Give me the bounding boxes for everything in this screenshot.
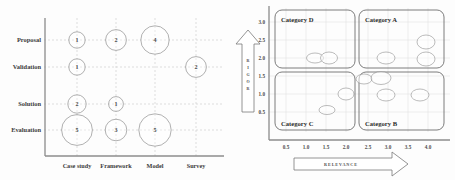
x-label-model: Model bbox=[147, 162, 164, 169]
y-tick: 2.0 bbox=[259, 55, 266, 61]
relevance-axis-arrow: RELEVANCE bbox=[294, 152, 408, 176]
figure-pair-canvas: Proposal Validation Solution Evaluation … bbox=[0, 0, 455, 180]
y-label-evaluation: Evaluation bbox=[11, 126, 41, 133]
right-quadrant-figure: 3.0 2.5 2.0 1.5 1.0 0.5 0.5 1.0 1.5 2.0 … bbox=[228, 0, 455, 180]
bubble-value: 1 bbox=[76, 37, 79, 43]
y-label-proposal: Proposal bbox=[17, 36, 41, 43]
x-tick: 0.5 bbox=[283, 144, 290, 150]
quadrant-label-category-b: Category B bbox=[365, 120, 398, 127]
left-chart-x-axis-labels: Case study Framework Model Survey bbox=[63, 162, 207, 169]
bubble-proposal-case-study: 1 bbox=[69, 32, 85, 48]
x-tick: 2.0 bbox=[343, 144, 350, 150]
x-tick: 2.5 bbox=[365, 144, 372, 150]
bubble-value: 2 bbox=[76, 101, 79, 107]
left-chart-y-axis-labels: Proposal Validation Solution Evaluation bbox=[11, 36, 41, 133]
x-tick: 1.0 bbox=[303, 144, 310, 150]
right-chart-x-tick-labels: 0.5 1.0 1.5 2.0 2.5 3.0 3.5 4.0 bbox=[283, 144, 432, 150]
relevance-axis-label: RELEVANCE bbox=[324, 162, 358, 167]
bubble-value: 5 bbox=[76, 127, 79, 133]
rigor-letter: G bbox=[246, 72, 249, 77]
bubble-solution-case-study: 2 bbox=[68, 95, 86, 113]
bubble-value: 5 bbox=[154, 127, 157, 133]
x-label-survey: Survey bbox=[187, 162, 206, 169]
bubble-value: 1 bbox=[76, 64, 79, 70]
bubble-proposal-model: 4 bbox=[141, 26, 169, 54]
bubble-evaluation-model: 5 bbox=[139, 114, 171, 146]
data-point-ellipse bbox=[356, 74, 372, 84]
quadrant-label-category-d: Category D bbox=[281, 16, 314, 23]
bubble-evaluation-framework: 3 bbox=[105, 119, 127, 141]
bubble-evaluation-case-study: 5 bbox=[62, 115, 93, 146]
x-tick: 1.5 bbox=[323, 144, 330, 150]
data-point-ellipse bbox=[377, 89, 395, 101]
y-tick: 2.5 bbox=[259, 37, 266, 43]
data-point-ellipse bbox=[338, 88, 354, 100]
data-point-ellipse bbox=[411, 89, 429, 101]
x-label-case-study: Case study bbox=[63, 162, 93, 169]
data-point-ellipse bbox=[417, 52, 435, 66]
left-chart-vertical-gridlines bbox=[77, 18, 196, 156]
data-point-ellipse bbox=[417, 35, 435, 49]
bubble-validation-case-study: 1 bbox=[69, 59, 85, 75]
data-point-ellipse bbox=[377, 52, 395, 64]
y-tick: 0.5 bbox=[259, 109, 266, 115]
bubble-solution-framework: 1 bbox=[109, 97, 124, 112]
x-tick: 3.5 bbox=[405, 144, 412, 150]
bubble-value: 1 bbox=[115, 101, 118, 107]
y-tick: 1.5 bbox=[259, 73, 266, 79]
left-bubble-matrix-figure: Proposal Validation Solution Evaluation … bbox=[0, 0, 228, 180]
quadrant-label-category-a: Category A bbox=[365, 16, 397, 23]
bubble-value: 4 bbox=[154, 37, 157, 43]
data-point-ellipse bbox=[319, 106, 335, 115]
rigor-letter: O bbox=[246, 79, 249, 84]
data-point-ellipse bbox=[321, 52, 338, 64]
x-label-framework: Framework bbox=[100, 162, 132, 169]
right-chart-y-tick-labels: 3.0 2.5 2.0 1.5 1.0 0.5 bbox=[259, 19, 266, 115]
rigor-letter: R bbox=[247, 58, 250, 63]
bubble-value: 2 bbox=[195, 64, 198, 70]
bubble-value: 3 bbox=[115, 127, 118, 133]
x-tick: 4.0 bbox=[425, 144, 432, 150]
bubble-validation-survey: 2 bbox=[186, 57, 207, 78]
data-point-ellipse bbox=[371, 72, 391, 85]
rigor-axis-arrow: R I G O R bbox=[236, 30, 260, 112]
x-tick: 3.0 bbox=[385, 144, 392, 150]
y-tick: 1.0 bbox=[259, 91, 266, 97]
bubble-value: 2 bbox=[115, 37, 118, 43]
rigor-letter: R bbox=[247, 86, 250, 91]
y-label-solution: Solution bbox=[18, 100, 41, 107]
y-label-validation: Validation bbox=[13, 63, 42, 70]
y-tick: 3.0 bbox=[259, 19, 266, 25]
bubble-proposal-framework: 2 bbox=[106, 30, 127, 51]
quadrant-label-category-c: Category C bbox=[281, 120, 314, 127]
left-chart-svg: Proposal Validation Solution Evaluation … bbox=[0, 0, 228, 180]
left-chart-bubbles: 1 2 4 1 2 bbox=[62, 26, 207, 146]
right-chart-svg: 3.0 2.5 2.0 1.5 1.0 0.5 0.5 1.0 1.5 2.0 … bbox=[228, 0, 455, 180]
